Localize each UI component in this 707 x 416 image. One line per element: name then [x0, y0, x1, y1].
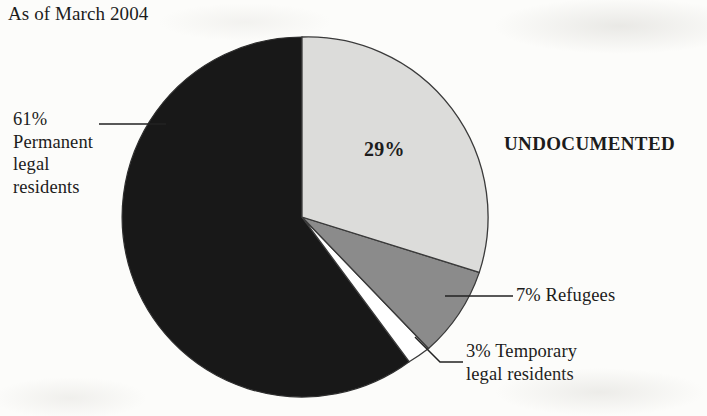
chart-page: As of March 2004 61% Permanent legal res… — [0, 0, 707, 416]
pie-label-refugees: 7% Refugees — [516, 284, 615, 307]
pie-label-permanent-legal-residents: 61% Permanent legal residents — [13, 108, 93, 198]
page-title: As of March 2004 — [8, 2, 148, 26]
pie-label-undocumented: UNDOCUMENTED — [504, 133, 675, 156]
pie-chart — [0, 0, 707, 416]
pie-value-label-undocumented: 29% — [364, 138, 405, 161]
pie-label-temporary-legal-residents: 3% Temporary legal residents — [466, 340, 577, 385]
